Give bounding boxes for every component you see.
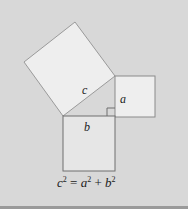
bottom-rule	[0, 206, 188, 209]
label-a: a	[120, 92, 126, 106]
label-c: c	[82, 83, 88, 97]
pythagorean-figure: c a b c2 = a2 + b2	[0, 0, 188, 213]
pythagorean-diagram: c a b c2 = a2 + b2	[0, 0, 188, 213]
right-angle-marker	[107, 108, 115, 116]
square-c	[24, 22, 115, 116]
equation: c2 = a2 + b2	[57, 175, 115, 190]
label-b: b	[84, 120, 90, 134]
